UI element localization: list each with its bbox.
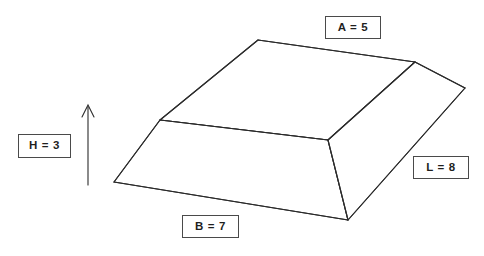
solid-figure bbox=[0, 0, 484, 256]
height-arrow bbox=[82, 105, 94, 185]
solid-edges bbox=[114, 40, 465, 220]
label-bottom-face: B = 7 bbox=[182, 215, 239, 238]
label-height: H = 3 bbox=[18, 134, 71, 158]
label-top-face: A = 5 bbox=[325, 16, 381, 39]
label-right-side: L = 8 bbox=[413, 156, 469, 179]
diagram-canvas: A = 5 L = 8 B = 7 H = 3 bbox=[0, 0, 484, 256]
